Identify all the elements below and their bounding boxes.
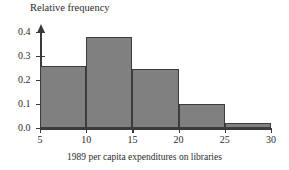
histogram-bar <box>86 37 132 128</box>
y-tick: 0.3 <box>36 56 45 57</box>
x-tick-label: 10 <box>81 134 91 146</box>
plot-area: 0.00.10.20.30.4 51015202530 <box>40 20 271 128</box>
histogram-figure: Relative frequency 0.00.10.20.30.4 51015… <box>0 0 289 170</box>
histogram-bar <box>40 66 86 128</box>
y-tick-label: 0.1 <box>18 98 31 110</box>
x-tick <box>86 128 87 133</box>
y-tick-label: 0.0 <box>18 122 31 134</box>
y-tick-label: 0.2 <box>18 74 31 86</box>
histogram-bar <box>179 104 225 128</box>
histogram-bar <box>132 69 178 128</box>
x-tick <box>179 128 180 133</box>
x-tick <box>271 128 272 133</box>
x-tick-label: 25 <box>220 134 230 146</box>
x-tick-label: 30 <box>266 134 276 146</box>
y-tick-label: 0.4 <box>18 26 31 38</box>
x-axis-line <box>40 128 271 130</box>
x-tick <box>132 128 133 133</box>
y-tick: 0.4 <box>36 32 45 33</box>
x-tick <box>225 128 226 133</box>
x-tick-label: 15 <box>127 134 137 146</box>
y-tick-label: 0.3 <box>18 50 31 62</box>
x-tick-label: 20 <box>174 134 184 146</box>
x-tick-label: 5 <box>38 134 43 146</box>
x-axis-label: 1989 per capita expenditures on librarie… <box>0 151 289 163</box>
y-axis-label: Relative frequency <box>30 2 110 14</box>
x-tick <box>40 128 41 133</box>
histogram-bar <box>225 123 271 128</box>
